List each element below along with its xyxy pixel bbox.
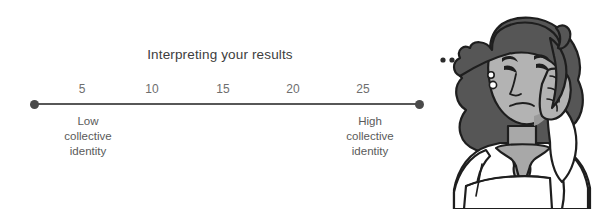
anchor-high-line-2: collective	[315, 129, 425, 144]
anchor-low-line-1: Low	[33, 114, 143, 129]
anchor-low-line-2: collective	[33, 129, 143, 144]
tick-label-10: 10	[132, 82, 172, 96]
tick-label-20: 20	[273, 82, 313, 96]
anchor-high-line-3: identity	[315, 144, 425, 159]
thinking-woman-illustration	[430, 0, 614, 209]
chart-title: Interpreting your results	[0, 47, 440, 62]
tick-label-5: 5	[62, 82, 102, 96]
interpretation-scale-diagram: Interpreting your results 5 10 15 20 25 …	[0, 0, 440, 209]
anchor-low-line-3: identity	[33, 144, 143, 159]
tick-label-25: 25	[343, 82, 383, 96]
axis-endpoint-dot-right	[415, 100, 424, 109]
scale-axis-line	[33, 103, 419, 105]
anchor-high-line-1: High	[315, 114, 425, 129]
tick-label-15: 15	[203, 82, 243, 96]
anchor-label-high: High collective identity	[315, 114, 425, 159]
axis-endpoint-dot-left	[30, 100, 39, 109]
thinking-woman-svg	[430, 0, 614, 209]
anchor-label-low: Low collective identity	[33, 114, 143, 159]
